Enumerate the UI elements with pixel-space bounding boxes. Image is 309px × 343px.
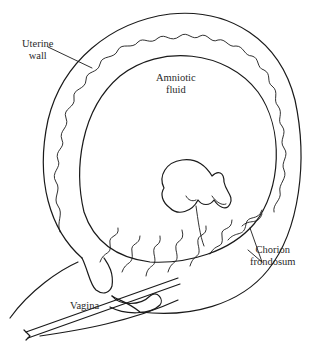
cervix-outline: [82, 258, 112, 293]
label-amniotic-fluid-line1: Amniotic: [156, 72, 196, 84]
label-chorion-line1: Chorion: [250, 244, 296, 256]
label-uterine-wall-line2: wall: [22, 50, 54, 62]
instrument-lower-edge: [28, 284, 180, 338]
uterine-wall-leader: [48, 47, 92, 68]
label-chorion-line2: frondosum: [250, 256, 296, 268]
embryo-limb: [186, 196, 226, 205]
instrument-upper-edge: [26, 278, 178, 332]
label-uterine-wall-line1: Uterine: [22, 38, 54, 50]
label-vagina: Vagina: [70, 300, 99, 312]
chorion-villi-layer: [54, 34, 286, 232]
vaginal-wall-lower: [40, 300, 178, 336]
label-chorion-frondosum: Chorion frondosum: [250, 244, 296, 268]
label-amniotic-fluid: Amniotic fluid: [156, 72, 196, 96]
chorion-frondosum-villi: [100, 210, 262, 276]
cervix-lower-lip: [10, 262, 78, 318]
umbilical-stalk: [196, 206, 204, 246]
label-amniotic-fluid-line2: fluid: [156, 84, 196, 96]
label-uterine-wall: Uterine wall: [22, 38, 54, 62]
